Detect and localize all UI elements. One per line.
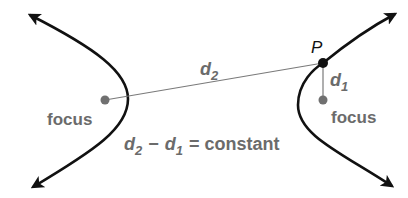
point-p-dot <box>318 58 328 68</box>
left-focus-dot <box>101 96 110 105</box>
point-p-label: P <box>311 38 323 57</box>
hyperbola-diagram: P d2 d1 focus focus d2−d1= constant <box>0 0 408 198</box>
right-focus-label: focus <box>331 108 376 127</box>
left-focus-label: focus <box>47 110 92 129</box>
d2-label: d2 <box>200 59 219 83</box>
equation-label: d2−d1= constant <box>124 134 280 158</box>
d1-label: d1 <box>330 70 348 94</box>
right-focus-dot <box>319 96 328 105</box>
left-branch-curve <box>30 15 128 187</box>
